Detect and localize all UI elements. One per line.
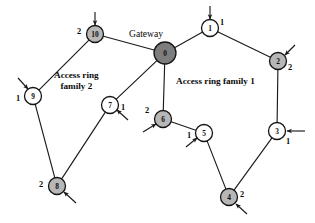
degree-label-node-7: 1 xyxy=(121,103,125,112)
edge-1-to-2 xyxy=(217,31,271,57)
edge-0-to-1 xyxy=(174,32,203,48)
edge-4-to-5 xyxy=(207,140,226,189)
node-3[interactable]: 3 xyxy=(269,123,286,140)
edge-5-to-6 xyxy=(170,122,196,131)
node-2[interactable]: 2 xyxy=(270,53,287,70)
edge-8-to-7 xyxy=(61,112,105,180)
node-1[interactable]: 1 xyxy=(202,20,219,37)
node-10[interactable]: 10 xyxy=(87,26,104,43)
access-stub-node-7 xyxy=(117,110,128,120)
access-stub-node-8 xyxy=(64,192,76,203)
node-0[interactable]: 0 xyxy=(154,42,176,64)
degree-label-node-10: 2 xyxy=(77,27,81,36)
region-label-access-ring-family-1: Access ring family 1 xyxy=(176,76,255,87)
degree-label-node-6: 2 xyxy=(145,106,149,115)
edge-9-to-8 xyxy=(35,104,55,179)
degree-label-node-4: 2 xyxy=(240,190,244,199)
node-label-7: 7 xyxy=(108,101,112,110)
node-label-10: 10 xyxy=(91,30,99,39)
node-label-2: 2 xyxy=(276,57,280,66)
gateway-label: Gateway xyxy=(129,28,163,39)
degree-label-node-1: 1 xyxy=(220,18,224,27)
node-label-8: 8 xyxy=(55,182,59,191)
degree-label-node-9: 1 xyxy=(16,94,20,103)
edge-3-to-4 xyxy=(234,137,273,190)
node-8[interactable]: 8 xyxy=(49,178,66,195)
node-7[interactable]: 7 xyxy=(102,97,119,114)
degree-label-node-2: 2 xyxy=(288,63,292,72)
access-stub-node-4 xyxy=(236,204,247,214)
edge-6-to-0 xyxy=(163,63,164,111)
network-topology-figure: 012345678910 1212121212 Gateway Access r… xyxy=(0,0,315,223)
node-5[interactable]: 5 xyxy=(196,125,213,142)
nodes-layer: 012345678910 xyxy=(25,20,287,206)
node-label-5: 5 xyxy=(202,129,206,138)
node-label-9: 9 xyxy=(31,92,35,101)
degree-label-node-5: 1 xyxy=(187,131,191,140)
edge-2-to-3 xyxy=(277,69,278,123)
degree-label-node-8: 2 xyxy=(39,180,43,189)
access-stub-node-6 xyxy=(143,124,156,132)
degree-labels-layer: 1212121212 xyxy=(16,18,292,199)
degree-label-node-3: 1 xyxy=(286,137,290,146)
node-4[interactable]: 4 xyxy=(221,189,238,206)
access-stub-node-2 xyxy=(285,45,295,55)
node-label-4: 4 xyxy=(227,193,231,202)
region-label-access-ring-family-2: Access ring family 2 xyxy=(54,70,99,92)
node-9[interactable]: 9 xyxy=(25,88,42,105)
node-label-1: 1 xyxy=(208,24,212,33)
node-6[interactable]: 6 xyxy=(155,111,172,128)
node-label-0: 0 xyxy=(163,49,167,58)
edge-7-to-0 xyxy=(116,60,158,99)
access-stub-node-9 xyxy=(18,78,28,89)
node-label-6: 6 xyxy=(161,115,165,124)
node-label-3: 3 xyxy=(275,127,279,136)
